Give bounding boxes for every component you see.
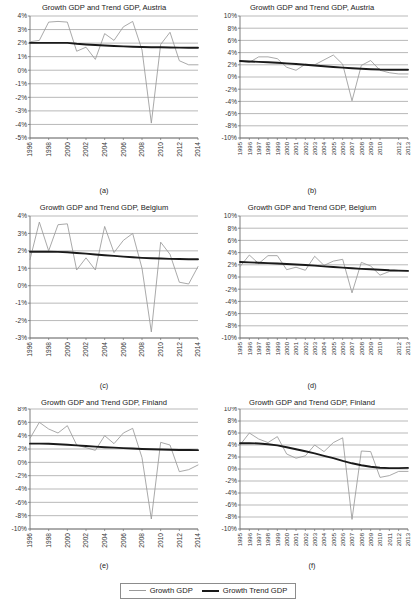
x-tick-label: 2003 [312,341,318,355]
x-tick-label: 2002 [82,533,89,548]
panel-caption-a: (a) [0,186,208,195]
x-tick-label: 2004 [321,532,327,546]
chart-title-a: Growth GDP and Trend GDP, Austria [0,0,208,12]
plot-area-d: 10%8%6%4%2%0%-2%-4%-6%-8%-10%19951996199… [208,212,416,393]
figure-sheet: Growth GDP and Trend GDP, Austria 4%3%2%… [0,0,416,605]
legend-item-growth-trend-gdp[interactable]: Growth Trend GDP [202,586,288,595]
x-tick-label: 2001 [293,532,299,546]
x-tick-label: 1998 [45,342,52,357]
y-tick-label: -10% [222,525,238,532]
x-tick-label: 2006 [340,341,346,355]
x-tick-label: 1997 [256,341,262,355]
y-tick-label: 2% [227,453,237,460]
x-tick-label: 2014 [194,533,201,548]
x-tick-label: 2006 [340,141,346,155]
x-tick-label: 2004 [321,141,327,155]
chart-panel-c: Growth GDP and Trend GDP, Belgium 4%3%2%… [0,200,208,395]
chart-panel-a: Growth GDP and Trend GDP, Austria 4%3%2%… [0,0,208,200]
x-tick-label: 2000 [64,342,71,357]
series-line-growth-trend-gdp [240,61,408,70]
x-tick-label: 1996 [26,142,33,157]
y-tick-label: 10% [224,407,237,412]
x-tick-label: 2005 [331,532,337,546]
chart-title-c: Growth GDP and Trend GDP, Belgium [0,200,208,212]
x-tick-label: 2008 [359,141,365,155]
y-tick-label: -3% [15,107,27,114]
y-tick-label: -4% [225,98,237,105]
x-tick-label: 2007 [349,341,355,355]
x-tick-label: 1998 [265,141,271,155]
y-tick-label: -6% [15,499,27,506]
y-tick-label: -6% [225,310,237,317]
x-tick-label: 2013 [405,141,411,155]
series-line-growth-gdp [240,433,408,519]
x-tick-label: 2009 [368,341,374,355]
y-tick-label: -2% [15,317,27,324]
y-tick-label: 2% [17,247,27,254]
plot-area-a: 4%3%2%1%0%-1%-2%-3%-4%-5%199619982000200… [0,12,208,198]
x-tick-label: 2008 [138,142,145,157]
y-tick-label: -2% [225,477,237,484]
y-tick-label: 6% [17,419,27,426]
chart-svg-f: 10%8%6%4%2%0%-2%-4%-6%-8%-10%19951996199… [208,407,416,573]
x-tick-label: 2012 [396,341,402,355]
y-tick-label: -6% [225,501,237,508]
panel-caption-d: (d) [208,381,416,390]
y-tick-label: -4% [15,121,27,128]
x-tick-label: 2003 [312,141,318,155]
x-tick-label: 2002 [303,532,309,546]
y-tick-label: 8% [227,225,237,232]
x-tick-label: 2007 [349,141,355,155]
x-tick-label: 2010 [157,342,164,357]
y-tick-label: 10% [224,212,237,219]
x-tick-label: 2000 [284,532,290,546]
x-tick-label: 2013 [405,341,411,355]
plot-area-e: 8%6%4%2%0%-2%-4%-6%-8%-10%19961998200020… [0,407,208,573]
x-tick-label: 2005 [331,341,337,355]
y-tick-label: -8% [225,322,237,329]
series-line-growth-gdp [240,255,408,293]
plot-area-c: 4%3%2%1%0%-1%-2%-3%199619982000200220042… [0,212,208,393]
y-tick-label: 2% [227,261,237,268]
x-tick-label: 2010 [377,141,383,155]
y-tick-label: 3% [17,26,27,33]
y-tick-label: 8% [227,25,237,32]
x-tick-label: 2002 [303,141,309,155]
x-tick-label: 1996 [26,533,33,548]
x-tick-label: 2008 [138,342,145,357]
x-tick-label: 2009 [368,532,374,546]
x-tick-label: 2006 [120,533,127,548]
x-tick-label: 1997 [256,141,262,155]
x-tick-label: 2004 [101,142,108,157]
x-tick-label: 2001 [293,341,299,355]
y-tick-label: -10% [222,134,238,141]
x-tick-label: 2009 [368,141,374,155]
y-tick-label: 0% [227,73,237,80]
legend-box: Growth GDP Growth Trend GDP [120,583,297,599]
x-tick-label: 1996 [247,532,253,546]
y-tick-label: 6% [227,237,237,244]
chart-title-f: Growth GDP and Trend GDP, Finland [208,395,416,407]
y-tick-label: 4% [227,49,237,56]
chart-svg-b: 10%8%6%4%2%0%-2%-4%-6%-8%-10%19951996199… [208,12,416,198]
y-tick-label: -1% [15,299,27,306]
y-tick-label: 0% [17,459,27,466]
chart-panel-e: Growth GDP and Trend GDP, Finland 8%6%4%… [0,395,208,575]
x-tick-label: 2001 [293,141,299,155]
y-tick-label: -5% [15,134,27,141]
series-line-growth-gdp [30,222,198,332]
x-tick-label: 2010 [157,142,164,157]
x-tick-label: 2008 [359,532,365,546]
figure-legend: Growth GDP Growth Trend GDP [0,583,416,599]
x-tick-label: 1999 [275,532,281,546]
y-tick-label: -8% [225,513,237,520]
x-tick-label: 2012 [176,342,183,357]
y-tick-label: -3% [15,334,27,341]
legend-item-growth-gdp[interactable]: Growth GDP [129,586,193,595]
chart-grid: Growth GDP and Trend GDP, Austria 4%3%2%… [0,0,416,575]
x-tick-label: 2002 [82,142,89,157]
y-tick-label: -4% [15,485,27,492]
x-tick-label: 2012 [176,142,183,157]
x-tick-label: 2012 [396,532,402,546]
x-tick-label: 1995 [237,532,243,546]
